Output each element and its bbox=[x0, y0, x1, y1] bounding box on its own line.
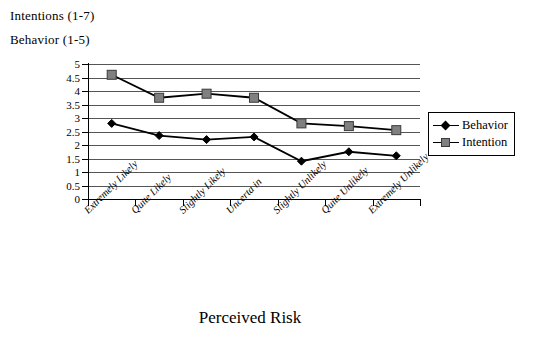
legend-label: Behavior bbox=[459, 118, 508, 133]
diamond-marker bbox=[250, 133, 258, 141]
legend-label: Intention bbox=[459, 135, 507, 150]
square-marker bbox=[433, 136, 459, 150]
square-marker bbox=[202, 89, 211, 98]
square-marker bbox=[107, 70, 116, 79]
square-marker bbox=[297, 119, 306, 128]
line-chart: 00.511.522.533.544.55 Extremely LikelyQu… bbox=[0, 0, 547, 350]
diamond-marker bbox=[108, 119, 116, 127]
diamond-marker bbox=[345, 148, 353, 156]
square-marker bbox=[155, 93, 164, 102]
legend-item-intention[interactable]: Intention bbox=[433, 134, 508, 151]
diamond-marker bbox=[433, 119, 459, 133]
square-marker bbox=[344, 122, 353, 131]
series-plot bbox=[0, 0, 547, 350]
square-marker bbox=[392, 126, 401, 135]
square-marker bbox=[250, 93, 259, 102]
x-axis-title: Perceived Risk bbox=[0, 308, 500, 328]
legend-item-behavior[interactable]: Behavior bbox=[433, 117, 508, 134]
diamond-marker bbox=[203, 136, 211, 144]
diamond-marker bbox=[155, 132, 163, 140]
diamond-marker bbox=[392, 152, 400, 160]
diamond-marker bbox=[297, 157, 305, 165]
series-intention bbox=[107, 70, 401, 134]
chart-legend: BehaviorIntention bbox=[428, 112, 515, 156]
